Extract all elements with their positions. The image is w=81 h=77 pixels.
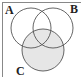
label-c: C bbox=[16, 64, 25, 77]
label-b: B bbox=[70, 2, 78, 16]
venn-diagram: A B C bbox=[0, 0, 81, 77]
circle-c bbox=[22, 29, 64, 71]
label-a: A bbox=[5, 3, 14, 17]
